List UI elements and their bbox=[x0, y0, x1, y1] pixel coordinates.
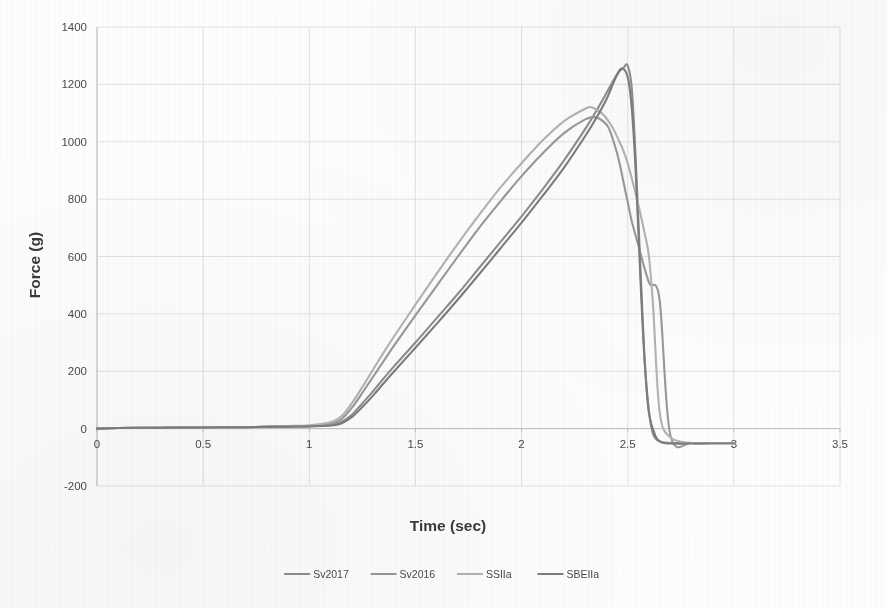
y-tick-label: 1400 bbox=[61, 21, 87, 33]
force-time-line-chart: -2000200400600800100012001400 00.511.522… bbox=[0, 0, 887, 608]
x-tick-label: 2 bbox=[518, 438, 524, 450]
legend-label-sv2017[interactable]: Sv2017 bbox=[313, 568, 349, 580]
y-tick-label: 200 bbox=[68, 365, 87, 377]
chart-legend: Sv2017Sv2016SSIIaSBEIIa bbox=[284, 568, 599, 580]
y-tick-label: 600 bbox=[68, 251, 87, 263]
y-tick-label: 1000 bbox=[61, 136, 87, 148]
x-axis-title: Time (sec) bbox=[410, 517, 486, 534]
y-tick-label: -200 bbox=[64, 480, 87, 492]
x-tick-label: 3.5 bbox=[832, 438, 848, 450]
legend-label-ssiia[interactable]: SSIIa bbox=[486, 568, 512, 580]
x-tick-label: 0.5 bbox=[195, 438, 211, 450]
grid-lines bbox=[97, 27, 840, 486]
y-tick-label: 1200 bbox=[61, 78, 87, 90]
legend-label-sv2016[interactable]: Sv2016 bbox=[400, 568, 436, 580]
x-tick-label: 1.5 bbox=[407, 438, 423, 450]
y-tick-label: 400 bbox=[68, 308, 87, 320]
x-tick-label: 1 bbox=[306, 438, 312, 450]
x-tick-label: 2.5 bbox=[620, 438, 636, 450]
legend-label-sbeiia[interactable]: SBEIIa bbox=[566, 568, 599, 580]
y-tick-label: 0 bbox=[81, 423, 87, 435]
y-axis-tick-labels: -2000200400600800100012001400 bbox=[61, 21, 87, 492]
y-tick-label: 800 bbox=[68, 193, 87, 205]
x-axis-tick-labels: 00.511.522.533.5 bbox=[94, 429, 848, 450]
x-tick-label: 0 bbox=[94, 438, 100, 450]
y-axis-title: Force (g) bbox=[26, 232, 43, 298]
